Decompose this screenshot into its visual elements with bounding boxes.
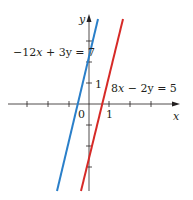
red-equation-label: 8x − 2y = 5	[111, 82, 177, 95]
red-line-series	[81, 19, 123, 191]
blue-equation-label: −12x + 3y = 7	[13, 46, 95, 59]
chart: y x 0 1 1 −12x + 3y = 7 8x − 2y = 5	[0, 0, 193, 200]
y-axis-label: y	[78, 13, 86, 26]
y-one-label: 1	[95, 78, 102, 91]
x-one-label: 1	[106, 108, 113, 121]
origin-label: 0	[78, 108, 85, 121]
y-axis-arrow-icon	[87, 14, 92, 22]
x-axis	[8, 101, 180, 107]
x-axis-label: x	[173, 110, 180, 123]
blue-line-series	[57, 19, 98, 191]
x-axis-arrow-icon	[172, 102, 180, 107]
